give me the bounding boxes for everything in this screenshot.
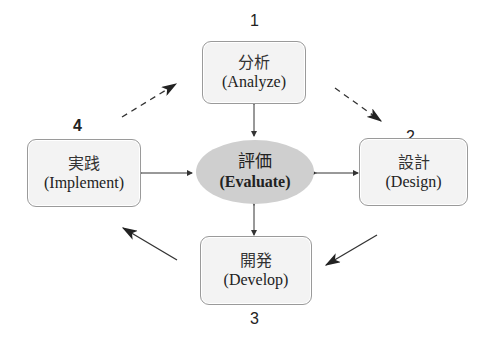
- node-analyze-jp: 分析: [238, 53, 270, 72]
- node-evaluate: 評価 (Evaluate): [196, 140, 314, 204]
- node-design-en: (Design): [386, 172, 442, 192]
- node-evaluate-en: (Evaluate): [219, 172, 290, 192]
- node-implement-en: (Implement): [44, 173, 124, 193]
- node-develop-jp: 開発: [240, 251, 272, 270]
- arrow-develop-to-implement: [123, 228, 177, 260]
- node-design-jp: 設計: [398, 153, 430, 172]
- step-number-1: 1: [250, 12, 259, 30]
- node-implement-jp: 実践: [68, 154, 100, 173]
- step-number-3: 3: [250, 310, 259, 328]
- node-analyze-en: (Analyze): [222, 72, 286, 92]
- node-design: 設計 (Design): [359, 138, 468, 206]
- node-develop-en: (Develop): [224, 270, 289, 290]
- node-implement: 実践 (Implement): [27, 139, 141, 207]
- arrow-design-to-develop: [326, 235, 377, 265]
- arrow-analyze-to-design: [335, 88, 381, 121]
- arrow-implement-to-analyze: [122, 84, 176, 117]
- node-develop: 開発 (Develop): [200, 236, 312, 305]
- step-number-4: 4: [73, 117, 82, 135]
- node-evaluate-jp: 評価: [238, 152, 272, 172]
- node-analyze: 分析 (Analyze): [202, 41, 306, 104]
